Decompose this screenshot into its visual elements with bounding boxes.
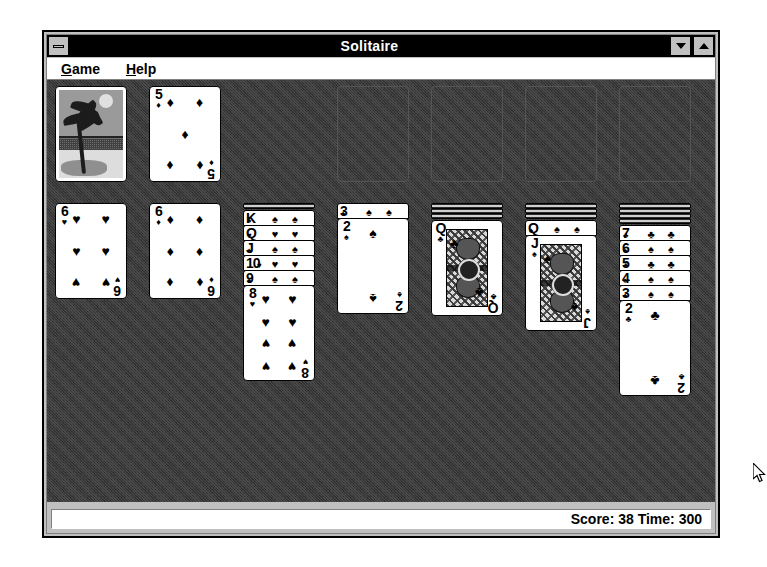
card-strip-6-of-spades[interactable]: 6♠♠♠ (619, 240, 691, 256)
card-suit-spades-icon: ♠ (393, 290, 406, 300)
score-time-text: Score: 38 Time: 300 (571, 511, 702, 527)
pip-hearts: ♥ (72, 276, 80, 290)
card-5-of-diamonds[interactable]: 5♦5♦♦♦♦♦♦ (149, 86, 221, 182)
foundation-3[interactable] (525, 86, 597, 182)
stock-pile[interactable] (55, 86, 127, 182)
pip-diamonds: ♦ (167, 95, 174, 109)
card-strip-k-of-spades[interactable]: K♠♠♠ (243, 210, 315, 226)
card-corner-br: 2♣ (675, 372, 688, 393)
card-corner-br: 2♠ (393, 290, 406, 311)
chevron-down-icon (676, 43, 686, 49)
pip-hearts: ♥ (288, 360, 296, 374)
strip-pips: ♠♠ (636, 288, 686, 299)
foundation-1[interactable] (337, 86, 409, 182)
pip-clubs: ♣ (667, 259, 674, 270)
pip-hearts: ♥ (102, 244, 110, 258)
maximize-button[interactable] (693, 36, 714, 56)
play-field[interactable]: 5♦5♦♦♦♦♦♦6♥6♥♥♥♥♥♥♥6♦6♦♦♦♦♦♦♦K♠♠♠Q♥♥♥J♠♠… (47, 80, 715, 502)
card-corner-br: 6♥ (111, 275, 124, 296)
card-strip-5-of-clubs[interactable]: 5♣♣♣ (619, 255, 691, 271)
card-2-of-clubs[interactable]: 2♣2♣♣♣ (619, 300, 691, 396)
card-strip-j-of-spades[interactable]: J♠♠♠ (243, 240, 315, 256)
pip-clubs: ♣ (650, 374, 659, 388)
card-rank: 8 (299, 368, 312, 378)
card-strip-3-of-spades[interactable]: 3♠♠♠ (619, 285, 691, 301)
pip-spades: ♠ (554, 224, 560, 235)
pip-diamonds: ♦ (167, 276, 174, 290)
court-suit-bottom-icon: ♣ (475, 285, 484, 300)
face-down-card[interactable] (243, 203, 315, 209)
pip-spades: ♠ (386, 207, 392, 218)
foundation-4[interactable] (619, 86, 691, 182)
minimize-box[interactable] (48, 36, 69, 56)
card-strip-10-of-hearts[interactable]: 10♥♥♥ (243, 255, 315, 271)
status-well: Score: 38 Time: 300 (51, 509, 711, 529)
card-6-of-hearts[interactable]: 6♥6♥♥♥♥♥♥♥ (55, 203, 127, 299)
pip-spades: ♠ (648, 289, 654, 300)
face-down-card[interactable] (525, 213, 597, 219)
pip-clubs: ♣ (667, 229, 674, 240)
card-back-palm-tree-beach-icon (59, 90, 123, 178)
window-buttons (669, 36, 715, 56)
pip-hearts: ♥ (292, 259, 299, 270)
pip-hearts: ♥ (72, 244, 80, 258)
menu-item-game[interactable]: Game (61, 61, 100, 77)
face-down-card[interactable] (619, 218, 691, 224)
pip-spades: ♠ (648, 274, 654, 285)
card-q-of-clubs[interactable]: Q♣Q♣♣♣ (431, 220, 503, 316)
artwork-orb (458, 259, 480, 281)
pip-clubs: ♣ (647, 229, 654, 240)
strip-pips: ♥♥ (260, 228, 310, 239)
sun-icon (99, 94, 113, 108)
pip-hearts: ♥ (72, 212, 80, 226)
pip-clubs: ♣ (647, 259, 654, 270)
card-corner-br: 8♥ (299, 357, 312, 378)
pip-hearts: ♥ (261, 315, 269, 329)
card-strip-q-of-hearts[interactable]: Q♥♥♥ (243, 225, 315, 241)
card-rank: 6 (205, 286, 218, 296)
court-suit-bottom-icon: ♠ (571, 300, 578, 315)
pip-clubs: ♣ (650, 308, 659, 322)
card-2-of-spades[interactable]: 2♠2♠♠♠ (337, 218, 409, 314)
strip-pips: ♠♠ (260, 213, 310, 224)
foundation-2[interactable] (431, 86, 503, 182)
restore-down-button[interactable] (670, 36, 691, 56)
pip-diamonds: ♦ (196, 276, 203, 290)
pip-hearts: ♥ (292, 229, 299, 240)
card-strip-7-of-clubs[interactable]: 7♣♣♣ (619, 225, 691, 241)
menu-item-help[interactable]: Help (126, 61, 156, 77)
artwork-head-top (456, 238, 480, 260)
card-j-of-spades[interactable]: J♠J♠♠♠ (525, 235, 597, 331)
strip-pips: ♥♥ (260, 258, 310, 269)
pip-hearts: ♥ (272, 229, 279, 240)
pip-spades: ♠ (648, 244, 654, 255)
pip-spades: ♠ (272, 214, 278, 225)
card-strip-9-of-spades[interactable]: 9♠♠♠ (243, 270, 315, 286)
menu-help-rest: elp (136, 61, 156, 77)
card-8-of-hearts[interactable]: 8♥8♥♥♥♥♥♥♥♥♥ (243, 285, 315, 381)
pip-spades: ♠ (272, 274, 278, 285)
card-suit-diamonds-icon: ♦ (205, 158, 218, 168)
card-corner-br: 5♦ (205, 158, 218, 179)
minimize-icon (53, 45, 64, 48)
title-bar[interactable]: Solitaire (47, 35, 715, 57)
court-artwork: ♠♠ (540, 244, 582, 322)
pip-spades: ♠ (292, 274, 298, 285)
card-rank: Q (487, 303, 500, 313)
card-suit-diamonds-icon: ♦ (205, 275, 218, 285)
face-down-card[interactable] (431, 213, 503, 219)
card-rank: 2 (675, 383, 688, 393)
status-bar: Score: 38 Time: 300 (47, 505, 715, 533)
strip-pips: ♣♣ (636, 258, 686, 269)
pip-hearts: ♥ (102, 276, 110, 290)
pip-spades: ♠ (668, 274, 674, 285)
card-strip-3-of-spades[interactable]: 3♠♠♠ (337, 203, 409, 219)
card-pips: ♣♣ (634, 305, 676, 391)
card-strip-q-of-spades[interactable]: Q♠♠♠ (525, 220, 597, 236)
pip-hearts: ♥ (261, 292, 269, 306)
card-6-of-diamonds[interactable]: 6♦6♦♦♦♦♦♦♦ (149, 203, 221, 299)
card-pips: ♥♥♥♥♥♥♥♥ (258, 290, 300, 376)
pip-hearts: ♥ (288, 337, 296, 351)
pip-diamonds: ♦ (196, 244, 203, 258)
card-strip-4-of-spades[interactable]: 4♠♠♠ (619, 270, 691, 286)
